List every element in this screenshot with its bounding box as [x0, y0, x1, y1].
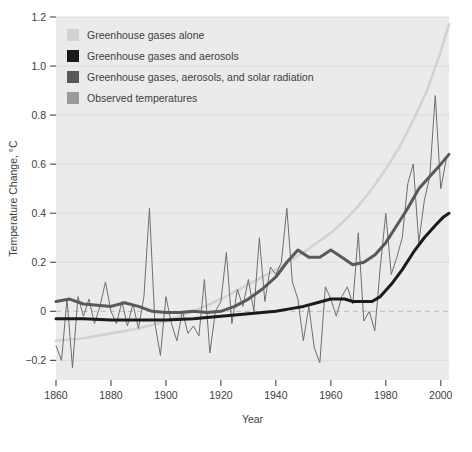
x-tick-label: 1920 [209, 389, 233, 401]
chart-figure: 18601880190019201940196019802000 −0.200.… [0, 0, 472, 452]
y-axis-label: Temperature Change, °C [7, 140, 19, 257]
temperature-change-line-chart: 18601880190019201940196019802000 −0.200.… [0, 0, 472, 452]
y-tick-label: −0.2 [25, 354, 46, 366]
x-tick-label: 1940 [264, 389, 288, 401]
legend-swatch [67, 50, 79, 62]
y-tick-label: 1.0 [31, 60, 46, 72]
x-tick-label: 2000 [429, 389, 453, 401]
legend-swatch [67, 92, 79, 104]
legend-label: Greenhouse gases, aerosols, and solar ra… [87, 71, 314, 83]
legend-swatch [67, 71, 79, 83]
legend-label: Observed temperatures [87, 92, 197, 104]
y-tick-label: 0.4 [31, 207, 46, 219]
y-tick-label: 0.6 [31, 158, 46, 170]
x-tick-label: 1960 [319, 389, 343, 401]
y-tick-label: 0 [40, 305, 46, 317]
x-tick-label: 1900 [154, 389, 178, 401]
legend-label: Greenhouse gases alone [87, 29, 204, 41]
y-tick-label: 1.2 [31, 11, 46, 23]
x-axis-label: Year [242, 413, 264, 425]
legend-swatch [67, 29, 79, 41]
y-tick-label: 0.2 [31, 256, 46, 268]
x-tick-label: 1880 [99, 389, 123, 401]
x-tick-label: 1860 [44, 389, 68, 401]
y-tick-label: 0.8 [31, 109, 46, 121]
x-tick-label: 1980 [374, 389, 398, 401]
legend-label: Greenhouse gases and aerosols [87, 50, 239, 62]
